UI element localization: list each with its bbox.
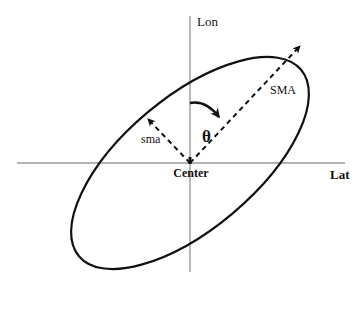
lat-axis-label: Lat: [330, 168, 350, 181]
semi-minor-axis-label: sma: [141, 133, 160, 145]
diagram-canvas: [0, 0, 361, 317]
theta-arc: [190, 103, 219, 117]
center-label: Center: [166, 167, 216, 179]
ellipse-diagram-figure: Lon Lat SMA sma Center θ: [0, 0, 361, 317]
lon-axis-label: Lon: [197, 15, 218, 28]
semi-major-axis-label: SMA: [270, 84, 296, 96]
theta-angle-label: θ: [202, 128, 211, 145]
